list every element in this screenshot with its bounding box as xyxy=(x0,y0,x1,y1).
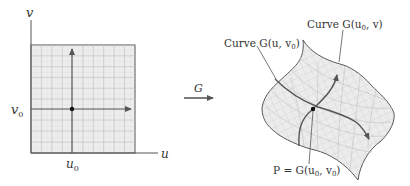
v0-tick-label: v0 xyxy=(11,102,23,119)
curve-u-v0-label: Curve G(u, v0) xyxy=(224,37,300,51)
u-axis-label: u xyxy=(161,147,169,161)
u0-tick-label: u0 xyxy=(66,157,79,173)
curve-u0-v-label: Curve G(u0, v) xyxy=(307,18,383,32)
leader-curve-v xyxy=(339,30,343,62)
domain-point xyxy=(70,107,74,111)
parametrization-diagram: v u v0 u0 G xyxy=(0,0,410,186)
v-axis-label: v xyxy=(26,5,34,20)
leader-curve-u xyxy=(257,46,276,79)
domain-panel: v u v0 u0 xyxy=(11,5,169,173)
mapping-label: G xyxy=(194,82,203,95)
point-p-label: P = G(u0, v0) xyxy=(273,164,340,178)
surface-panel: Curve G(u, v0) Curve G(u0, v) P = G(u0, … xyxy=(224,18,394,180)
mapping-arrow: G xyxy=(184,82,213,98)
surface-point-p xyxy=(311,107,315,111)
